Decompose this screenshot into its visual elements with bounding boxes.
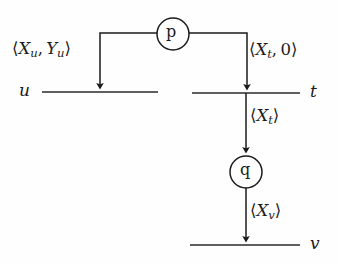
message-arrow-xt-zero	[189, 33, 247, 87]
angle-close-bracket: ⟩	[273, 106, 279, 125]
variable-x: X	[18, 39, 30, 58]
subscript-u: u	[30, 46, 37, 60]
message-label-xt: ⟨Xt⟩	[250, 108, 279, 127]
message-arrow-xu-yu	[100, 33, 157, 86]
angle-close-bracket: ⟩	[275, 201, 281, 220]
numeral-zero: 0	[280, 40, 291, 59]
message-label-xt-zero: ⟨Xt, 0⟩	[249, 42, 297, 61]
variable-x: X	[255, 40, 267, 59]
angle-close-bracket: ⟩	[65, 39, 71, 58]
process-label-t: t	[310, 83, 317, 100]
subscript-u-2: u	[57, 46, 64, 60]
variable-y: Y	[46, 39, 57, 58]
message-label-xu-yu: ⟨Xu, Yu⟩	[12, 41, 71, 60]
message-label-xv: ⟨Xv⟩	[250, 203, 281, 222]
variable-x: X	[256, 201, 268, 220]
label-comma: ,	[38, 39, 47, 58]
event-node-label-q: q	[240, 162, 250, 178]
message-sequence-diagram: ⟨Xu, Yu⟩ ⟨Xt, 0⟩ ⟨Xt⟩ ⟨Xv⟩ u t v p q	[0, 0, 338, 264]
process-label-v: v	[310, 235, 320, 252]
event-node-label-p: p	[166, 24, 176, 40]
process-label-u: u	[19, 82, 30, 99]
variable-x: X	[256, 106, 268, 125]
angle-close-bracket: ⟩	[291, 40, 297, 59]
